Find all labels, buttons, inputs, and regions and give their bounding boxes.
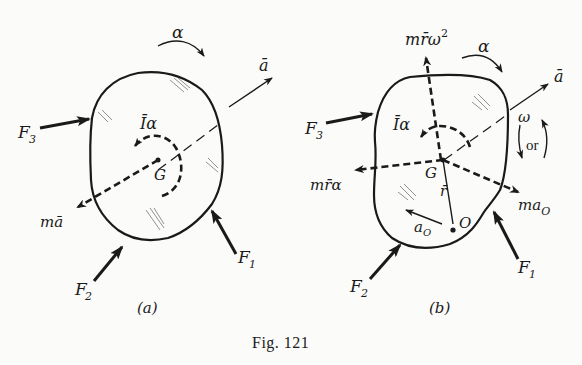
a-bar-label-a: ā	[259, 56, 269, 75]
point-o-b	[450, 227, 455, 232]
panel-a: α ā Īα G mā 3 F 3 F 2 F 1 (a)	[17, 22, 272, 317]
ma-bar-label-a: mā	[40, 213, 63, 231]
inertia-couple-arc-b	[421, 126, 470, 147]
force-f2-subscript-b: 2	[360, 287, 368, 300]
force-f2-subscript-a: 2	[84, 290, 92, 303]
alpha-arrow-b	[462, 55, 502, 72]
a-bar-arrow-b	[510, 84, 548, 110]
force-f3-subscript-b: 3	[316, 129, 323, 142]
a-o-label-b: aO	[414, 218, 431, 238]
inertia-couple-label-a: Īα	[139, 113, 157, 133]
ma-o-arrow-b	[443, 160, 518, 192]
panel-a-label: (a)	[137, 299, 158, 317]
omega-label-b: ω	[518, 108, 530, 126]
panel-b: mr̄ω2 α ā ω or Īα G mr̄α maO r̄ O aO	[304, 27, 564, 317]
omega-ccw-arrow-b	[542, 120, 547, 158]
alpha-label-a: α	[172, 22, 184, 42]
alpha-label-b: α	[478, 36, 490, 56]
a-bar-label-b: ā	[554, 67, 564, 86]
g-label-b: G	[425, 164, 437, 182]
force-f2-arrow-a	[94, 247, 122, 281]
force-f3-arrow-a	[40, 119, 89, 128]
force-f2-arrow-b	[370, 245, 400, 279]
figure-121: α ā Īα G mā 3 F 3 F 2 F 1 (a)	[0, 0, 582, 365]
a-bar-line-b	[444, 114, 508, 160]
or-label-b: or	[526, 137, 539, 153]
o-label-b: O	[459, 214, 471, 232]
tangential-inertia-label-b: mr̄α	[310, 176, 342, 194]
force-f3-arrow-b	[326, 114, 372, 123]
force-f1-subscript-a: 1	[249, 258, 256, 271]
g-label-a: G	[154, 166, 166, 184]
ma-o-label-b: maO	[518, 196, 550, 218]
centripetal-inertia-arrow-b	[426, 58, 441, 160]
force-f1-subscript-b: 1	[529, 268, 536, 281]
inertia-couple-label-b: Īα	[392, 114, 410, 134]
a-o-arrow-b	[406, 210, 442, 224]
omega-cw-arrow-b	[519, 125, 522, 158]
panel-b-label: (b)	[429, 299, 450, 317]
centripetal-inertia-label-b: mr̄ω2	[405, 27, 448, 49]
a-bar-arrow-a	[229, 78, 272, 107]
force-f1-arrow-b	[494, 212, 518, 259]
force-f1-arrow-a	[212, 211, 236, 254]
alpha-arrow-a	[158, 41, 204, 56]
figure-caption: Fig. 121	[252, 334, 309, 352]
force-f3-subscript-a: 3	[29, 133, 36, 146]
hatch-marks-a	[98, 78, 218, 230]
rigid-body-outline-a	[90, 72, 222, 240]
